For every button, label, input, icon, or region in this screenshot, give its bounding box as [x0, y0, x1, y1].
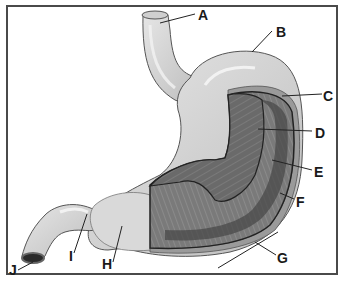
label-pyloric-antrum: H [102, 257, 112, 271]
duodenum [22, 205, 95, 263]
label-oblique-muscle: D [315, 126, 325, 140]
label-fundus: B [276, 25, 286, 39]
label-greater-curvature: G [277, 251, 288, 265]
label-pyloric-sphincter: I [69, 249, 73, 263]
label-serosa: C [323, 89, 333, 103]
label-longitudinal-muscle: F [296, 195, 305, 209]
label-circular-muscle: E [314, 165, 323, 179]
stomach-illustration [0, 0, 341, 282]
label-esophagus: A [198, 8, 208, 22]
label-duodenum: J [9, 263, 17, 277]
